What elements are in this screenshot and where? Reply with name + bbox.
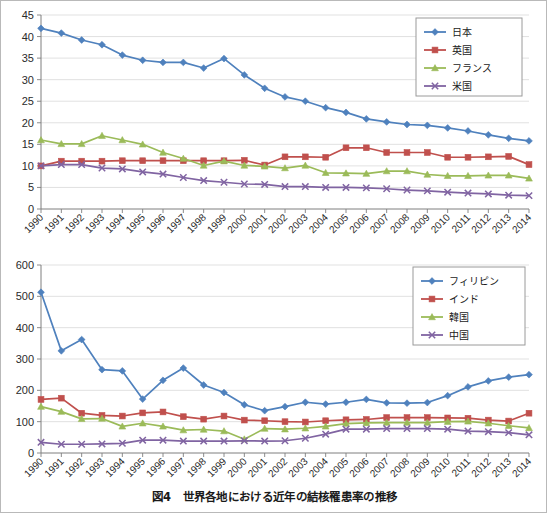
y-tick-label: 35 xyxy=(22,52,34,64)
x-tick-label: 1999 xyxy=(205,455,229,479)
x-tick-label: 2010 xyxy=(429,455,453,479)
x-tick-label: 1993 xyxy=(83,211,107,235)
legend-label: インド xyxy=(449,294,479,305)
legend-marker-square-marker xyxy=(429,296,435,302)
data-point xyxy=(302,419,308,425)
x-axis: 1990199119921993199419951996199719981999… xyxy=(22,209,534,235)
legend-label: 韓国 xyxy=(449,312,469,323)
x-tick-label: 2005 xyxy=(327,211,351,235)
data-point xyxy=(323,154,329,160)
y-tick-label: 200 xyxy=(16,384,34,396)
legend-label: 英国 xyxy=(452,44,472,56)
y-tick-label: 10 xyxy=(22,160,34,172)
x-tick-label: 2005 xyxy=(327,455,351,479)
data-point xyxy=(140,158,146,164)
legend-label: フランス xyxy=(452,63,492,74)
y-axis: 051015202530354045 xyxy=(22,9,41,215)
data-point xyxy=(241,417,247,423)
legend: 日本英国フランス米国 xyxy=(416,18,522,96)
y-tick-label: 5 xyxy=(28,181,34,193)
figure-caption: 図4 世界各地における近年の結核罹患率の推移 xyxy=(1,488,547,504)
y-tick-label: 0 xyxy=(28,203,34,215)
x-tick-label: 1998 xyxy=(185,455,209,479)
x-tick-label: 2011 xyxy=(449,455,472,478)
y-tick-label: 0 xyxy=(28,447,34,459)
x-tick-label: 1996 xyxy=(144,211,168,235)
x-tick-label: 2002 xyxy=(266,211,290,235)
legend-label: 中国 xyxy=(449,329,469,341)
x-tick-label: 1996 xyxy=(144,455,168,479)
x-tick-label: 1995 xyxy=(124,455,148,479)
x-tick-label: 1990 xyxy=(22,455,46,479)
data-point xyxy=(160,409,166,415)
x-tick-label: 2006 xyxy=(347,455,371,479)
figure-container: 0510152025303540451990199119921993199419… xyxy=(0,0,547,513)
data-point xyxy=(282,154,288,160)
y-tick-label: 45 xyxy=(22,9,34,21)
legend-label: 日本 xyxy=(452,26,472,38)
x-tick-label: 1992 xyxy=(63,211,87,235)
x-tick-label: 2002 xyxy=(266,455,290,479)
data-point xyxy=(363,145,369,151)
data-point xyxy=(465,154,471,160)
x-tick-label: 1990 xyxy=(22,211,46,235)
y-tick-label: 25 xyxy=(22,95,34,107)
x-tick-label: 1999 xyxy=(205,211,229,235)
data-point xyxy=(180,414,186,420)
x-tick-label: 1991 xyxy=(42,455,66,479)
x-tick-label: 1993 xyxy=(83,455,107,479)
data-point xyxy=(201,416,207,422)
chart-bottom-svg: 0100200300400500600199019911992199319941… xyxy=(1,253,547,485)
y-tick-label: 40 xyxy=(22,31,34,43)
data-point xyxy=(282,419,288,425)
data-point xyxy=(119,413,125,419)
data-point xyxy=(506,154,512,160)
chart-top-svg: 0510152025303540451990199119921993199419… xyxy=(1,1,547,251)
data-point xyxy=(404,150,410,156)
x-tick-label: 2004 xyxy=(307,211,331,235)
legend-marker-square-marker xyxy=(432,47,438,53)
x-tick-label: 2013 xyxy=(490,211,514,235)
x-tick-label: 2003 xyxy=(286,211,310,235)
data-point xyxy=(262,418,268,424)
legend-label: 米国 xyxy=(452,80,472,92)
data-point xyxy=(160,158,166,164)
x-tick-label: 1991 xyxy=(42,211,66,235)
x-tick-label: 1995 xyxy=(124,211,148,235)
x-tick-label: 1997 xyxy=(164,211,188,235)
x-tick-label: 1994 xyxy=(103,455,127,479)
x-tick-label: 2007 xyxy=(368,455,392,479)
x-tick-label: 2008 xyxy=(388,211,412,235)
data-point xyxy=(526,410,532,416)
x-tick-label: 1998 xyxy=(185,211,209,235)
x-tick-label: 2009 xyxy=(408,455,432,479)
x-tick-label: 1994 xyxy=(103,211,127,235)
x-tick-label: 2000 xyxy=(225,211,249,235)
x-tick-label: 2003 xyxy=(286,455,310,479)
x-tick-label: 2001 xyxy=(246,455,270,479)
x-axis: 1990199119921993199419951996199719981999… xyxy=(22,453,534,479)
legend-label: フィリピン xyxy=(449,276,499,287)
chart-bottom-asian-countries: 0100200300400500600199019911992199319941… xyxy=(1,253,547,485)
x-tick-label: 2004 xyxy=(307,455,331,479)
data-point xyxy=(384,150,390,156)
x-tick-label: 2007 xyxy=(368,211,392,235)
x-tick-label: 2012 xyxy=(469,455,493,479)
y-tick-label: 300 xyxy=(16,353,34,365)
x-tick-label: 2006 xyxy=(347,211,371,235)
x-tick-label: 2011 xyxy=(449,211,472,234)
data-point xyxy=(343,145,349,151)
x-tick-label: 1992 xyxy=(63,455,87,479)
y-tick-label: 500 xyxy=(16,290,34,302)
data-point xyxy=(221,413,227,419)
chart-top-developed-countries: 0510152025303540451990199119921993199419… xyxy=(1,1,547,251)
y-tick-label: 100 xyxy=(16,416,34,428)
y-tick-label: 30 xyxy=(22,74,34,86)
data-point xyxy=(526,162,532,168)
data-point xyxy=(445,154,451,160)
x-tick-label: 2009 xyxy=(408,211,432,235)
y-tick-label: 15 xyxy=(22,138,34,150)
x-tick-label: 2013 xyxy=(490,455,514,479)
data-point xyxy=(38,397,44,403)
x-tick-label: 1997 xyxy=(164,455,188,479)
